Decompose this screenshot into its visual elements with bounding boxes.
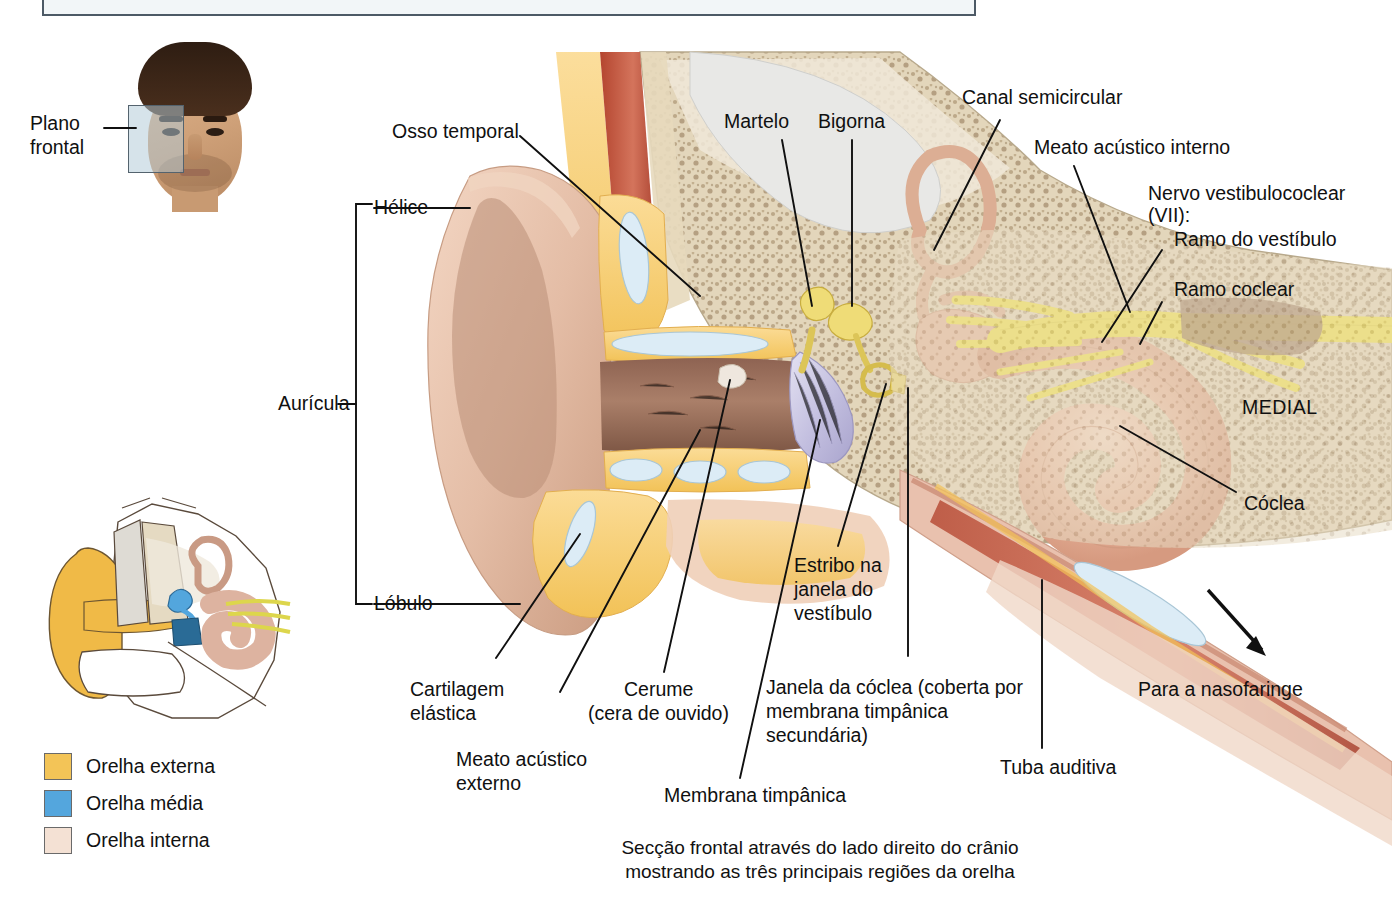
frontal-plane-marker <box>128 105 184 173</box>
label-estribo-line1: Estribo na <box>794 554 882 577</box>
label-estribo-line3: vestíbulo <box>794 602 872 625</box>
incus-long-process <box>856 336 870 370</box>
legend-swatch-orelha-externa <box>44 753 72 780</box>
canal-hairs <box>640 376 756 430</box>
figure-canvas: interna. Plano frontal <box>0 0 1392 907</box>
label-ramo-coclear: Ramo coclear <box>1174 278 1294 301</box>
auricular-fat-canal-roof <box>604 326 796 362</box>
cochlea <box>1000 346 1208 548</box>
inferior-bone-wedge <box>986 560 1392 846</box>
label-lobule: Lóbulo <box>374 592 433 615</box>
label-janela-coclea-line1: Janela da cóclea (coberta por <box>766 676 1023 699</box>
elastic-cartilage-canal-floor <box>610 459 790 483</box>
orientation-inset-diagram <box>22 492 292 720</box>
tympanic-membrane <box>790 352 854 463</box>
label-para-nasofaringe: Para a nasofaringe <box>1138 678 1303 701</box>
plane-callout-line2: frontal <box>30 136 84 159</box>
cochlea-outline <box>1000 346 1208 548</box>
label-estribo-line2: janela do <box>794 578 873 601</box>
cranial-cavity <box>690 52 941 233</box>
stapes <box>863 365 898 395</box>
lobule-fat <box>533 490 673 618</box>
inset-cochlea <box>210 600 266 659</box>
label-martelo: Martelo <box>724 110 789 133</box>
label-meato-acustico-interno: Meato acústico interno <box>1034 136 1230 159</box>
label-osso-temporal: Osso temporal <box>392 120 519 143</box>
face-eye-right <box>206 128 224 136</box>
face-brow-right <box>203 116 227 122</box>
label-cerume-line1: Cerume <box>624 678 693 701</box>
label-coclea: Cóclea <box>1244 492 1305 515</box>
auditory-tube <box>900 470 1392 820</box>
skull-outer-table <box>641 52 690 312</box>
figure-caption-line2: mostrando as três principais regiões da … <box>560 860 1080 884</box>
label-cartilagem-line2: elástica <box>410 702 476 725</box>
auricular-fat-canal-floor <box>604 448 810 492</box>
internal-acoustic-meatus <box>1180 298 1323 356</box>
label-tuba-auditiva: Tuba auditiva <box>1000 756 1116 779</box>
legend-item-orelha-externa: Orelha externa <box>44 748 215 785</box>
incus <box>828 303 872 340</box>
legend-label-orelha-externa: Orelha externa <box>86 755 215 778</box>
stapes-footplate <box>890 372 906 394</box>
legend-swatch-orelha-media <box>44 790 72 817</box>
title-box: interna. <box>42 0 976 16</box>
label-cartilagem-line1: Cartilagem <box>410 678 504 701</box>
petrous-bone <box>889 229 1392 548</box>
elastic-cartilage-lobule <box>558 498 602 570</box>
label-nervo-vestibulococlear-line1: Nervo vestibulococlear <box>1148 182 1345 205</box>
elastic-cartilage-upper <box>615 211 652 305</box>
semicircular-canal-lateral <box>944 296 1000 312</box>
temporalis-muscle <box>600 52 660 330</box>
title-box-text: interna. <box>60 0 123 2</box>
face-nose <box>188 134 202 160</box>
legend-swatch-orelha-interna <box>44 827 72 854</box>
plane-callout-line1: Plano <box>30 112 80 135</box>
nerve-outline <box>1000 318 1392 330</box>
auricular-fat-upper <box>599 195 668 352</box>
label-meato-externo-line2: externo <box>456 772 521 795</box>
ossicles <box>800 287 906 395</box>
eardrum-striations <box>794 358 842 448</box>
temporal-bone-cortex <box>660 58 1010 215</box>
label-janela-coclea-line2: membrana timpânica <box>766 700 948 723</box>
semicircular-canal-posterior <box>922 268 982 341</box>
helix-rim <box>468 172 580 238</box>
label-medial-orientation: MEDIAL <box>1242 396 1318 419</box>
label-bigorna: Bigorna <box>818 110 885 133</box>
label-auricle: Aurícula <box>278 392 350 415</box>
figure-caption-line1: Secção frontal através do lado direito d… <box>560 836 1080 860</box>
legend-item-orelha-interna: Orelha interna <box>44 822 215 859</box>
label-helix: Hélice <box>374 196 428 219</box>
vestibule <box>916 309 1002 382</box>
cochlea-spiral <box>1000 346 1208 548</box>
inset-mandible <box>79 649 184 696</box>
malleus-handle <box>802 330 812 370</box>
legend-label-orelha-interna: Orelha interna <box>86 829 210 852</box>
auricle <box>428 166 612 635</box>
label-canal-semicircular: Canal semicircular <box>962 86 1122 109</box>
temporal-fat-strip <box>556 52 622 340</box>
face-mouth <box>180 169 210 176</box>
legend: Orelha externa Orelha média Orelha inter… <box>44 748 215 859</box>
vestibulocochlear-nerve <box>950 300 1392 398</box>
tube-fat-line <box>936 486 1344 750</box>
label-ramo-do-vestibulo: Ramo do vestíbulo <box>1174 228 1337 251</box>
legend-label-orelha-media: Orelha média <box>86 792 203 815</box>
tensor-veli-muscle <box>930 500 1360 770</box>
cerumen <box>718 364 746 388</box>
external-acoustic-meatus <box>600 358 806 454</box>
label-janela-coclea-line3: secundária) <box>766 724 868 747</box>
tube-cartilage <box>1067 551 1214 657</box>
malleus <box>800 287 834 320</box>
label-cerume-line2: (cera de ouvido) <box>588 702 729 725</box>
label-membrana-timpanica: Membrana timpânica <box>664 784 846 807</box>
legend-item-orelha-media: Orelha média <box>44 785 215 822</box>
label-meato-externo-line1: Meato acústico <box>456 748 587 771</box>
label-nervo-vestibulococlear-line2: (VII): <box>1148 204 1190 227</box>
nasopharynx-arrow <box>1208 590 1266 656</box>
concha-shadow <box>452 198 557 498</box>
semicircular-canal-superior <box>912 152 990 273</box>
elastic-cartilage-canal-roof <box>612 332 768 356</box>
